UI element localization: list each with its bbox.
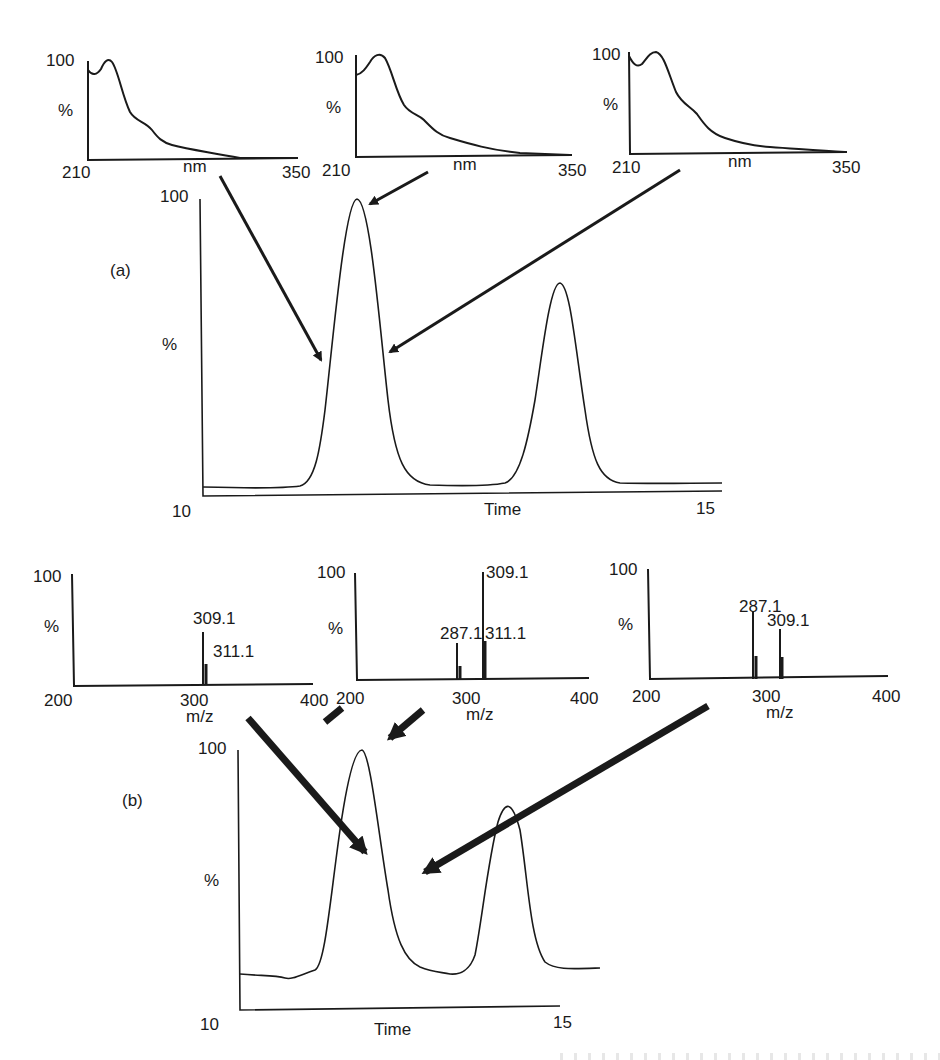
uv-spectrum-2: 100 % 210 350 nm: [315, 48, 586, 180]
uv1-axes: [88, 61, 298, 160]
ms3-y-label: %: [618, 615, 633, 634]
ms3-x-tick-200: 200: [632, 687, 660, 706]
chromB-trace: [240, 750, 600, 978]
chromA-trace: [203, 199, 722, 488]
uv-spectrum-3: 100 % 210 350 nm: [592, 45, 860, 177]
uv1-x-tick-210: 210: [62, 163, 90, 182]
ms1-y-label: %: [44, 617, 59, 636]
chromB-x-tick-15: 15: [553, 1013, 572, 1032]
arrows-b: [248, 706, 708, 872]
arrow-ms2-to-peak: [390, 710, 423, 738]
mass-spectrum-1: 100 % 309.1 311.1 200 300 400 m/z: [33, 567, 328, 726]
chromA-y-tick-100: 100: [160, 187, 188, 206]
ms2-peak-label-287: 287.1: [440, 624, 483, 643]
panel-a-label: (a): [110, 261, 131, 280]
arrow-uv3-to-peak: [390, 170, 680, 352]
arrow-uv2-to-peak: [370, 172, 428, 204]
uv3-axes: [629, 52, 847, 154]
ms1-peak-label-311: 311.1: [213, 642, 254, 661]
uv2-x-tick-210: 210: [322, 161, 350, 180]
ms3-peak-label-309: 309.1: [767, 611, 810, 630]
uv2-y-tick-100: 100: [315, 48, 343, 67]
ms3-y-tick-100: 100: [609, 560, 637, 579]
ms1-x-tick-400: 400: [300, 691, 328, 710]
chromB-y-label: %: [204, 871, 219, 890]
ms2-peak-label-309: 309.1: [486, 563, 529, 582]
uv2-x-label: nm: [453, 155, 477, 174]
uv1-trace: [88, 60, 296, 158]
arrow-ms2-stub: [325, 708, 342, 722]
arrow-ms3-to-peak: [425, 706, 708, 872]
uv-spectrum-1: 100 % 210 350 nm: [46, 51, 310, 182]
ms1-x-label: m/z: [186, 707, 213, 726]
chromA-x-tick-15: 15: [696, 499, 715, 518]
ms2-x-tick-400: 400: [570, 689, 598, 708]
ms2-x-label: m/z: [466, 705, 493, 724]
chromA-x-tick-10: 10: [172, 502, 191, 521]
ms1-axes: [72, 574, 313, 686]
chromA-x-label: Time: [484, 500, 521, 519]
ms3-x-tick-400: 400: [872, 687, 900, 706]
uv1-x-tick-350: 350: [282, 163, 310, 182]
uv3-trace: [629, 52, 845, 152]
arrows-a: [220, 170, 680, 360]
uv3-y-label: %: [603, 95, 618, 114]
chromB-x-tick-10: 10: [200, 1015, 219, 1034]
chromB-axes: [238, 750, 560, 1010]
chromB-y-tick-100: 100: [198, 739, 226, 758]
panel-b-label: (b): [122, 791, 143, 810]
ms2-y-tick-100: 100: [317, 563, 345, 582]
chromA-axes: [200, 199, 722, 496]
uv3-y-tick-100: 100: [592, 45, 620, 64]
mass-spectrum-2: 100 % 309.1 287.1 311.1 200 300 400 m/z: [317, 563, 598, 724]
uv1-y-tick-100: 100: [46, 51, 74, 70]
ms1-y-tick-100: 100: [33, 567, 61, 586]
chromatogram-a: (a) 100 % 10 Time 15: [110, 187, 722, 521]
uv2-trace: [356, 55, 570, 155]
ms2-x-tick-200: 200: [336, 689, 364, 708]
uv3-x-tick-350: 350: [832, 158, 860, 177]
ms3-x-label: m/z: [766, 703, 793, 722]
ms1-x-tick-200: 200: [44, 691, 72, 710]
uv2-y-label: %: [326, 98, 341, 117]
uv2-x-tick-350: 350: [558, 161, 586, 180]
mass-spectrum-3: 100 % 287.1 309.1 200 300 400 m/z: [609, 560, 900, 722]
uv3-x-label: nm: [728, 152, 752, 171]
chromatogram-b: (b) 100 % 10 Time 15: [122, 739, 600, 1039]
arrow-uv1-to-peak: [220, 176, 321, 360]
chromB-x-label: Time: [374, 1020, 411, 1039]
uv1-y-label: %: [58, 101, 73, 120]
chromA-y-label: %: [162, 335, 177, 354]
ms2-peak-label-311: 311.1: [485, 624, 526, 643]
caption-fragment: [560, 1053, 940, 1060]
uv3-x-tick-210: 210: [612, 158, 640, 177]
ms1-peak-label-309: 309.1: [193, 609, 236, 628]
ms2-y-label: %: [328, 619, 343, 638]
